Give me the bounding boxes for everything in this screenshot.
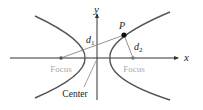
- focus-left-label: Focus: [50, 64, 72, 74]
- x-axis-label: x: [183, 51, 189, 63]
- center-leader-line: [84, 61, 96, 87]
- focus-left-point: [59, 56, 63, 60]
- d1-label: d1: [86, 34, 95, 47]
- d2-segment: [124, 35, 133, 58]
- d2-label: d2: [134, 41, 143, 54]
- center-label: Center: [62, 89, 88, 99]
- y-axis-label: y: [93, 3, 99, 15]
- focus-right-point: [131, 56, 135, 60]
- point-p: [121, 32, 126, 37]
- hyperbola-diagram: y x P d1 d2 Focus Focus Center: [0, 0, 203, 110]
- point-p-label: P: [118, 20, 125, 31]
- focus-right-label: Focus: [123, 64, 145, 74]
